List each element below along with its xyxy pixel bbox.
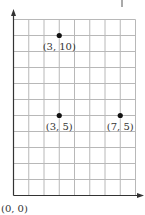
y-axis-arrow-icon <box>11 9 16 16</box>
point-label: (7, 5) <box>107 121 134 132</box>
coordinate-grid-chart: (3, 10)(3, 5)(7, 5) (0, 0) <box>0 0 145 215</box>
x-axis-arrow-icon <box>137 193 144 198</box>
data-point <box>57 113 62 118</box>
data-point <box>118 113 123 118</box>
data-point <box>57 33 62 38</box>
point-label: (3, 10) <box>43 41 76 52</box>
axes <box>11 9 144 198</box>
origin-label: (0, 0) <box>1 203 28 214</box>
point-label: (3, 5) <box>46 121 73 132</box>
